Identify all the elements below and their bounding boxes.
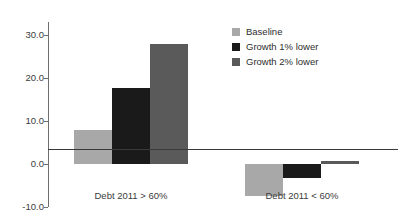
bar	[74, 130, 112, 164]
bar	[150, 44, 188, 164]
legend-swatch-icon	[232, 28, 240, 36]
y-axis-tick-label: 30.0	[26, 29, 45, 41]
y-axis-tick-label: -10.0	[22, 201, 44, 213]
legend-item[interactable]: Growth 1% lower	[232, 40, 318, 53]
y-axis-tick-mark	[44, 207, 48, 208]
bar	[283, 164, 321, 178]
legend-item[interactable]: Baseline	[232, 25, 318, 38]
y-axis-tick-label: 20.0	[26, 72, 45, 84]
x-axis-category-label: Debt 2011 > 60%	[81, 190, 181, 201]
legend-item-label: Baseline	[246, 25, 282, 38]
y-axis-tick-label: 10.0	[26, 115, 45, 127]
y-axis-tick-label: 0.0	[31, 158, 44, 170]
legend-swatch-icon	[232, 43, 240, 51]
bar-chart: 30.020.010.00.0-10.0 Debt 2011 > 60%Debt…	[0, 0, 403, 217]
x-axis-category-label: Debt 2011 < 60%	[252, 190, 352, 201]
bar	[321, 161, 359, 164]
chart-legend: BaselineGrowth 1% lowerGrowth 2% lower	[232, 25, 318, 70]
legend-item[interactable]: Growth 2% lower	[232, 55, 318, 68]
plot-area	[48, 22, 398, 207]
legend-item-label: Growth 2% lower	[246, 55, 318, 68]
bar	[112, 88, 150, 164]
legend-item-label: Growth 1% lower	[246, 40, 318, 53]
legend-swatch-icon	[232, 58, 240, 66]
zero-baseline	[48, 149, 398, 150]
